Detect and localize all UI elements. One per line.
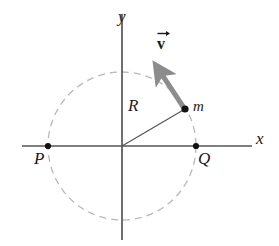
point-label-p: P bbox=[34, 150, 44, 167]
radius-label-r: R bbox=[128, 97, 138, 114]
point-marker-p bbox=[45, 143, 51, 149]
velocity-vector-label: v bbox=[157, 36, 165, 52]
y-axis-label: y bbox=[118, 8, 126, 25]
velocity-vector-arrow bbox=[160, 72, 184, 108]
point-label-q: Q bbox=[198, 150, 210, 167]
physics-diagram: y x P Q m R v bbox=[0, 0, 279, 246]
velocity-vector-label-text: v bbox=[157, 36, 165, 52]
diagram-canvas bbox=[0, 0, 279, 246]
x-axis-label: x bbox=[256, 130, 264, 147]
mass-label-m: m bbox=[193, 99, 204, 114]
vector-overbar-arrow-icon bbox=[157, 30, 170, 37]
point-marker-mass bbox=[181, 105, 188, 112]
